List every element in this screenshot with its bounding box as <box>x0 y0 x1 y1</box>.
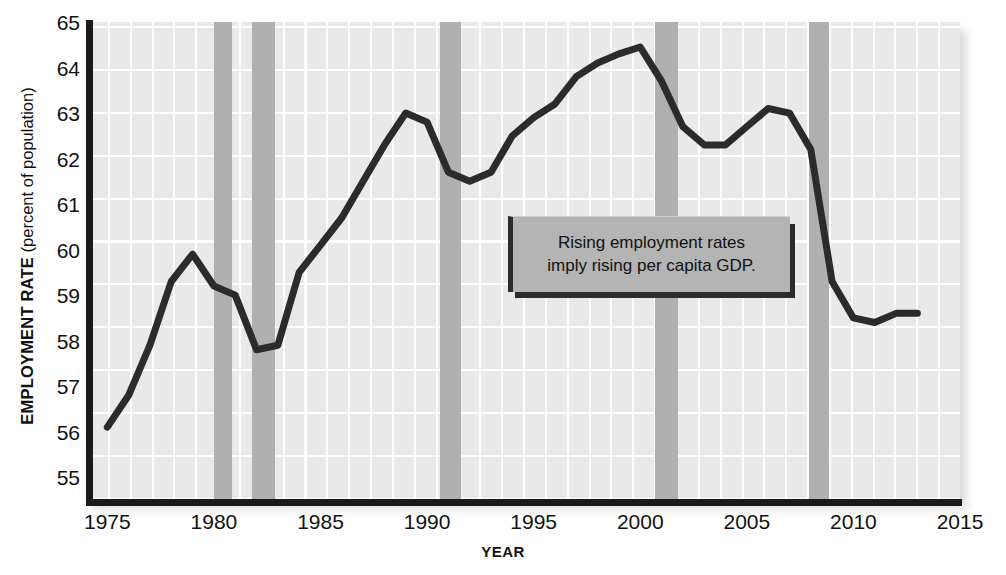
x-tick-1980: 1980 <box>169 511 259 533</box>
annotation-callout-text: Rising employment rates imply rising per… <box>539 232 764 277</box>
x-axis-title: YEAR <box>0 543 1006 560</box>
annotation-callout: Rising employment rates imply rising per… <box>508 216 790 292</box>
y-tick-65: 65 <box>38 12 80 33</box>
y-tick-61: 61 <box>38 194 80 215</box>
y-tick-55: 55 <box>38 467 80 488</box>
x-tick-2015: 2015 <box>915 511 1005 533</box>
x-axis-spine <box>86 499 962 506</box>
x-tick-1990: 1990 <box>382 511 472 533</box>
y-tick-58: 58 <box>38 330 80 351</box>
y-tick-60: 60 <box>38 239 80 260</box>
y-tick-57: 57 <box>38 376 80 397</box>
x-axis-tick-labels: 197519801985199019952000200520102015 <box>0 511 1006 541</box>
employment-rate-chart: EMPLOYMENT RATE (percent of population) … <box>0 0 1006 575</box>
y-tick-56: 56 <box>38 421 80 442</box>
x-tick-1995: 1995 <box>489 511 579 533</box>
y-tick-62: 62 <box>38 148 80 169</box>
y-tick-59: 59 <box>38 285 80 306</box>
x-tick-1985: 1985 <box>275 511 365 533</box>
y-axis-spine <box>86 20 93 506</box>
x-tick-2005: 2005 <box>702 511 792 533</box>
x-tick-2010: 2010 <box>808 511 898 533</box>
x-tick-1975: 1975 <box>62 511 152 533</box>
x-tick-2000: 2000 <box>595 511 685 533</box>
annotation-line-2: imply rising per capita GDP. <box>547 256 756 275</box>
y-tick-64: 64 <box>38 57 80 78</box>
y-tick-63: 63 <box>38 103 80 124</box>
annotation-line-1: Rising employment rates <box>558 233 745 252</box>
y-axis-tick-labels: 5556575859606162636465 <box>28 0 80 575</box>
